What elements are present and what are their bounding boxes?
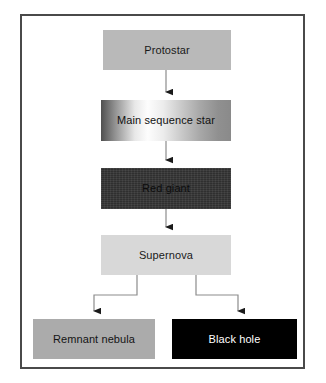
node-protostar-label: Protostar — [144, 45, 190, 56]
node-protostar: Protostar — [103, 30, 231, 70]
node-black-hole-label: Black hole — [209, 334, 261, 345]
node-red-giant: Red giant — [101, 168, 231, 209]
node-black-hole: Black hole — [172, 319, 297, 359]
node-supernova-label: Supernova — [139, 250, 193, 261]
node-remnant-nebula-label: Remnant nebula — [53, 334, 135, 345]
node-supernova: Supernova — [101, 235, 231, 275]
stellar-evolution-diagram: Protostar Main sequence star Red giant S… — [0, 0, 326, 383]
node-remnant-nebula: Remnant nebula — [33, 319, 155, 359]
node-red-giant-label: Red giant — [142, 183, 190, 194]
node-main-sequence-star-label: Main sequence star — [117, 115, 215, 126]
node-main-sequence-star: Main sequence star — [101, 100, 231, 141]
